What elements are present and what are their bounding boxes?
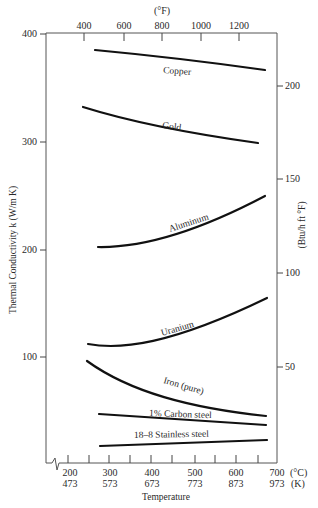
- x-top-tick-1000: 1000: [191, 20, 211, 31]
- x-tick-k-773: 773: [188, 478, 203, 489]
- y-tick-200: 200: [22, 244, 37, 255]
- y-right-tick-50: 50: [285, 361, 295, 372]
- y-axis-title-left: Thermal Conductivity k (W/m K): [8, 186, 19, 314]
- plot-frame: [46, 33, 277, 470]
- y-right-tick-200: 200: [285, 80, 300, 91]
- x-tick-k-473: 473: [63, 478, 78, 489]
- x-top-tick-400: 400: [77, 20, 92, 31]
- axis-break-symbol: [46, 458, 60, 470]
- x-tick-c-200: 200: [63, 467, 78, 478]
- x-tick-c-600: 600: [229, 467, 244, 478]
- label-iron: Iron (pure): [162, 375, 205, 397]
- x-axis-title: Temperature: [142, 492, 190, 502]
- x-tick-k-973: 973: [270, 478, 285, 489]
- x-tick-c-300: 300: [103, 467, 118, 478]
- x-top-tick-1200: 1200: [229, 20, 249, 31]
- x-unit-k: (K): [291, 478, 305, 490]
- label-stainless-steel: 18–8 Stainless steel: [134, 429, 209, 440]
- curve-labels: Copper Gold Aluminum Uranium Iron (pure)…: [134, 65, 213, 440]
- label-copper: Copper: [163, 65, 192, 77]
- x-tick-c-700: 700: [270, 467, 285, 478]
- x-tick-k-873: 873: [229, 478, 244, 489]
- y-tick-100: 100: [22, 351, 37, 362]
- x-top-tick-600: 600: [117, 20, 132, 31]
- curve-uranium: [88, 298, 267, 346]
- y-right-tick-100: 100: [285, 267, 300, 278]
- thermal-conductivity-chart: 400 300 200 100 200 150 100 50 400 600 8…: [0, 0, 318, 508]
- y-tick-300: 300: [22, 136, 37, 147]
- x-tick-k-573: 573: [103, 478, 118, 489]
- x-tick-c-500: 500: [188, 467, 203, 478]
- label-gold: Gold: [162, 120, 182, 133]
- y-right-tick-150: 150: [285, 173, 300, 184]
- y-axis-title-right: (Btu/h ft °F): [297, 201, 308, 248]
- x-top-ticks: 400 600 800 1000 1200 (°F): [77, 5, 250, 41]
- x-top-tick-800: 800: [155, 20, 170, 31]
- x-bottom-ticks: 200 300 400 500 600 700 (°C) 473 573 673…: [63, 455, 308, 490]
- curve-stainless-steel: [100, 440, 267, 446]
- y-tick-400: 400: [22, 28, 37, 39]
- x-top-unit: (°F): [154, 5, 170, 17]
- x-tick-k-673: 673: [145, 478, 160, 489]
- y-left-ticks: 400 300 200 100: [22, 28, 46, 362]
- x-tick-c-400: 400: [145, 467, 160, 478]
